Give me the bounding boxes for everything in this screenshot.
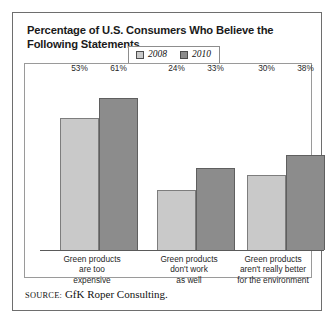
bar-2-2010 xyxy=(196,168,235,251)
bar-3-2010 xyxy=(286,155,325,250)
source-text: GfK Roper Consulting. xyxy=(62,288,168,300)
category-label-1-line-3: expensive xyxy=(40,275,144,285)
bar-1-2008 xyxy=(60,118,99,251)
bar-group-2: 24% 33% xyxy=(157,75,235,250)
bar-wrap-3-2008: 30% xyxy=(247,75,286,250)
category-label-1-line-2: are too xyxy=(40,264,144,274)
bar-value-2-2008: 24% xyxy=(168,63,185,73)
category-label-3-line-2: aren't really better xyxy=(221,264,325,274)
legend-label-2010: 2010 xyxy=(192,50,211,60)
category-label-1-line-1: Green products xyxy=(40,254,144,264)
category-label-3-line-3: for the environment xyxy=(221,275,325,285)
legend-swatch-2010 xyxy=(180,51,188,59)
bar-2-2008 xyxy=(157,190,196,250)
legend-swatch-2008 xyxy=(136,51,144,59)
bar-value-1-2010: 61% xyxy=(110,63,127,73)
bar-wrap-2-2010: 33% xyxy=(196,75,235,250)
source-label: Source: xyxy=(25,291,62,300)
bar-wrap-3-2010: 38% xyxy=(286,75,325,250)
figure-frame: Percentage of U.S. Consumers Who Believe… xyxy=(12,12,322,311)
legend-entry-2010: 2010 xyxy=(180,50,211,60)
source-note: Source: GfK Roper Consulting. xyxy=(25,288,168,300)
category-label-1: Green products are too expensive xyxy=(40,254,144,285)
category-label-3: Green products aren't really better for … xyxy=(221,254,325,285)
x-axis-line xyxy=(40,250,324,251)
legend-entry-2008: 2008 xyxy=(136,50,167,60)
bar-value-2-2010: 33% xyxy=(207,63,224,73)
bar-group-3: 30% 38% xyxy=(247,75,325,250)
bar-wrap-1-2010: 61% xyxy=(99,75,138,250)
chart-legend: 2008 2010 xyxy=(128,46,220,64)
bar-value-3-2010: 38% xyxy=(297,63,314,73)
legend-label-2008: 2008 xyxy=(148,50,167,60)
category-label-3-line-1: Green products xyxy=(221,254,325,264)
plot-area: 53% 61% 24% 33% 30% xyxy=(40,75,312,250)
bar-wrap-2-2008: 24% xyxy=(157,75,196,250)
bar-1-2010 xyxy=(99,98,138,251)
bar-value-3-2008: 30% xyxy=(258,63,275,73)
bar-value-1-2008: 53% xyxy=(71,63,88,73)
bar-wrap-1-2008: 53% xyxy=(60,75,99,250)
bar-group-1: 53% 61% xyxy=(60,75,138,250)
bar-3-2008 xyxy=(247,175,286,250)
